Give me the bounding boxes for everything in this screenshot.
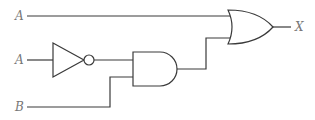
- or-gate-icon: [228, 10, 273, 44]
- input-label-a-middle: A: [14, 53, 24, 67]
- output-label-x: X: [294, 20, 304, 34]
- input-label-b: B: [14, 100, 24, 114]
- not-gate-triangle-icon: [53, 43, 84, 77]
- and-gate-icon: [133, 52, 177, 86]
- not-gate: [53, 43, 94, 77]
- logic-circuit-diagram: A A B X: [0, 0, 315, 120]
- wire-b-to-and: [27, 77, 133, 107]
- input-label-a-top: A: [14, 9, 24, 23]
- wire-and-to-or: [177, 38, 232, 69]
- not-gate-bubble-icon: [84, 55, 94, 65]
